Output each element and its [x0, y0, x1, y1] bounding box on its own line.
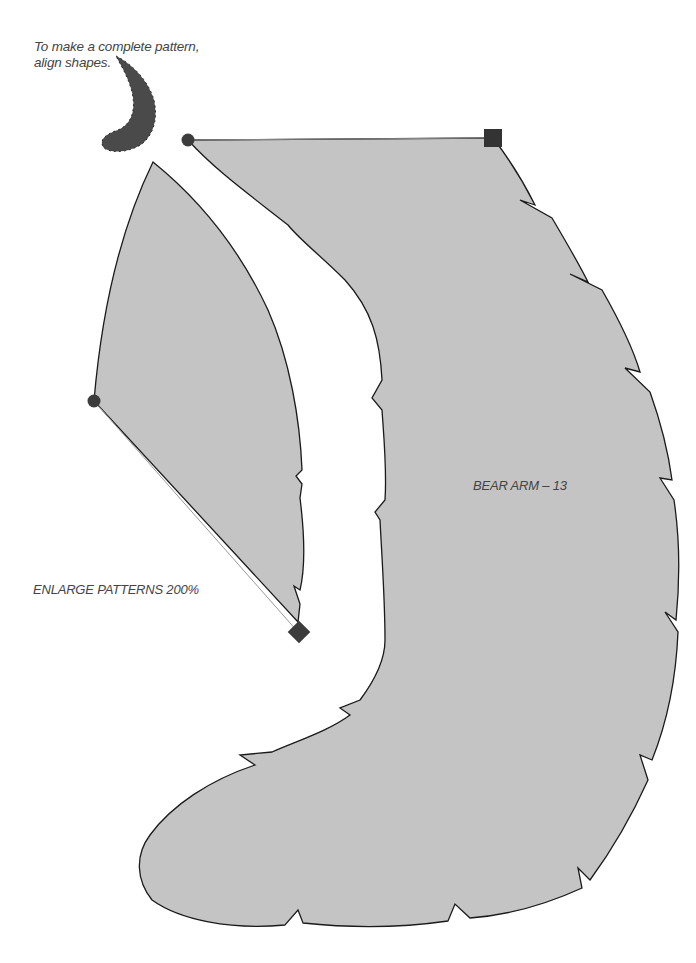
circle-marker-left: [88, 395, 101, 408]
circle-marker-top: [182, 134, 195, 147]
square-marker-top: [484, 129, 502, 147]
arm-inner-piece: [94, 162, 304, 622]
pattern-drawing: [0, 0, 696, 963]
align-instructions: To make a complete pattern, align shapes…: [34, 39, 234, 71]
piece-label: BEAR ARM – 13: [473, 478, 567, 493]
enlarge-note: ENLARGE PATTERNS 200%: [33, 582, 199, 597]
instructions-line-2: align shapes.: [34, 55, 234, 71]
pattern-sheet: To make a complete pattern, align shapes…: [0, 0, 696, 963]
instructions-line-1: To make a complete pattern,: [34, 39, 234, 55]
